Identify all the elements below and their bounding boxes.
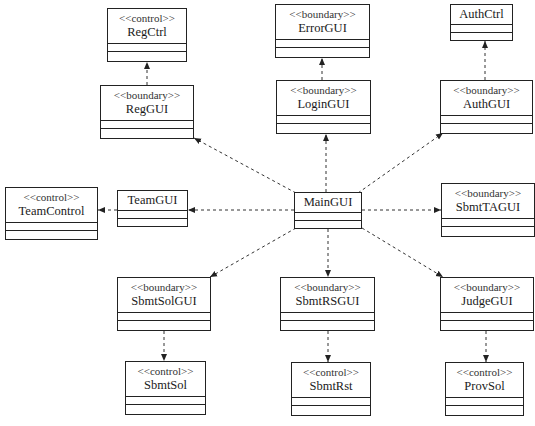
attributes-compartment — [292, 398, 370, 406]
class-name: SbmtSolGUI — [131, 294, 196, 309]
attributes-compartment — [281, 313, 374, 321]
stereotype-label: <<boundary>> — [131, 281, 197, 294]
operations-compartment — [281, 321, 374, 330]
class-name: TeamGUI — [128, 193, 178, 208]
operations-compartment — [118, 219, 187, 228]
operations-compartment — [441, 124, 532, 133]
class-header: MainGUI — [295, 193, 361, 213]
class-sbmtsol: <<control>> SbmtSol — [125, 361, 206, 415]
arrow-main-to-judgegui — [362, 228, 443, 277]
stereotype-label: <<control>> — [119, 12, 175, 25]
class-name: AuthGUI — [463, 97, 510, 112]
operations-compartment — [295, 221, 361, 230]
stereotype-label: <<boundary>> — [114, 89, 180, 102]
class-authgui: <<boundary>> AuthGUI — [440, 80, 533, 134]
operations-compartment — [6, 231, 97, 240]
class-header: <<boundary>> SbmtSolGUI — [118, 278, 210, 313]
class-header: <<boundary>> SbmtRSGUI — [281, 278, 374, 313]
class-header: <<boundary>> JudgeGUI — [441, 278, 533, 313]
class-authctrl: AuthCtrl — [450, 4, 513, 41]
class-header: <<boundary>> LoginGUI — [277, 81, 370, 116]
class-teamcontrol: <<control>> TeamControl — [5, 187, 98, 240]
stereotype-label: <<boundary>> — [453, 84, 519, 97]
operations-compartment — [126, 405, 205, 414]
attributes-compartment — [277, 116, 370, 124]
attributes-compartment — [118, 313, 210, 321]
attributes-compartment — [118, 211, 187, 219]
class-sbmtrst: <<control>> SbmtRst — [291, 362, 371, 416]
class-header: <<control>> ProvSol — [446, 363, 523, 398]
class-header: <<control>> TeamControl — [6, 188, 97, 223]
attributes-compartment — [276, 40, 369, 48]
operations-compartment — [446, 406, 523, 415]
attributes-compartment — [441, 313, 533, 321]
operations-compartment — [451, 33, 512, 42]
operations-compartment — [276, 48, 369, 57]
class-name: LoginGUI — [297, 97, 349, 112]
class-header: <<control>> RegCtrl — [108, 9, 186, 44]
operations-compartment — [441, 321, 533, 330]
class-name: TeamControl — [19, 204, 85, 219]
class-teamgui: TeamGUI — [117, 190, 188, 227]
attributes-compartment — [6, 223, 97, 231]
class-judgegui: <<boundary>> JudgeGUI — [440, 277, 534, 331]
attributes-compartment — [442, 219, 534, 227]
operations-compartment — [442, 227, 534, 236]
class-name: JudgeGUI — [461, 294, 512, 309]
operations-compartment — [108, 52, 186, 61]
operations-compartment — [101, 129, 193, 138]
stereotype-label: <<boundary>> — [455, 187, 521, 200]
class-sbmttagui: <<boundary>> SbmtTAGUI — [441, 183, 535, 237]
attributes-compartment — [108, 44, 186, 52]
stereotype-label: <<boundary>> — [289, 8, 355, 21]
attributes-compartment — [126, 397, 205, 405]
attributes-compartment — [446, 398, 523, 406]
arrow-main-to-sbmtsolgui — [210, 228, 296, 277]
class-header: TeamGUI — [118, 191, 187, 211]
class-name: SbmtRst — [309, 379, 352, 394]
attributes-compartment — [295, 213, 361, 221]
class-name: RegCtrl — [127, 25, 167, 40]
class-name: SbmtRSGUI — [296, 294, 360, 309]
stereotype-label: <<boundary>> — [290, 84, 356, 97]
class-name: SbmtSol — [144, 378, 187, 393]
operations-compartment — [118, 321, 210, 330]
class-provsol: <<control>> ProvSol — [445, 362, 524, 416]
class-regctrl: <<control>> RegCtrl — [107, 8, 187, 62]
class-name: ProvSol — [464, 379, 504, 394]
class-reggui: <<boundary>> RegGUI — [100, 85, 194, 139]
operations-compartment — [292, 406, 370, 415]
class-header: <<boundary>> RegGUI — [101, 86, 193, 121]
stereotype-label: <<boundary>> — [294, 281, 360, 294]
class-name: AuthCtrl — [459, 7, 503, 22]
operations-compartment — [277, 124, 370, 133]
class-name: SbmtTAGUI — [456, 200, 520, 215]
stereotype-label: <<control>> — [457, 366, 513, 379]
attributes-compartment — [101, 121, 193, 129]
class-header: <<boundary>> SbmtTAGUI — [442, 184, 534, 219]
stereotype-label: <<control>> — [138, 365, 194, 378]
class-header: <<boundary>> ErrorGUI — [276, 5, 369, 40]
class-logingui: <<boundary>> LoginGUI — [276, 80, 371, 134]
class-header: <<control>> SbmtRst — [292, 363, 370, 398]
class-maingui: MainGUI — [294, 192, 362, 229]
class-name: MainGUI — [304, 195, 353, 210]
stereotype-label: <<boundary>> — [454, 281, 520, 294]
class-name: RegGUI — [126, 102, 168, 117]
class-header: <<boundary>> AuthGUI — [441, 81, 532, 116]
class-header: AuthCtrl — [451, 5, 512, 25]
class-errorgui: <<boundary>> ErrorGUI — [275, 4, 370, 58]
class-header: <<control>> SbmtSol — [126, 362, 205, 397]
class-sbmtsolgui: <<boundary>> SbmtSolGUI — [117, 277, 211, 331]
attributes-compartment — [451, 25, 512, 33]
arrow-main-to-reggui — [194, 138, 296, 193]
class-sbmtrsgui: <<boundary>> SbmtRSGUI — [280, 277, 375, 331]
arrow-main-to-authgui — [358, 133, 443, 193]
stereotype-label: <<control>> — [24, 191, 80, 204]
class-name: ErrorGUI — [298, 21, 347, 36]
attributes-compartment — [441, 116, 532, 124]
stereotype-label: <<control>> — [303, 366, 359, 379]
